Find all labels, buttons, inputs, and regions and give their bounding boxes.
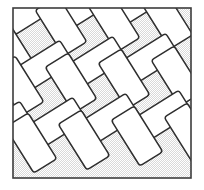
figure-root [0,0,204,190]
tiling-diagram [0,0,204,190]
